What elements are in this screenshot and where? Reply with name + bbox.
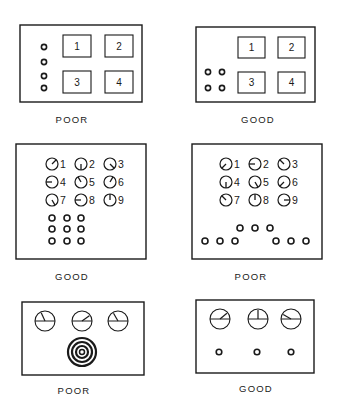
knob-icon <box>41 73 46 78</box>
dial-pointer <box>222 164 226 168</box>
concentric-knob-icon <box>76 346 88 358</box>
dial-label: 3 <box>118 158 124 170</box>
dial-pointer <box>110 177 113 182</box>
knob-icon <box>216 349 222 355</box>
knob-icon <box>64 215 70 221</box>
panel-frame <box>196 27 315 102</box>
knob-icon <box>41 85 46 90</box>
panel-layout-diagram: 12341234123456789123456789 <box>0 0 338 407</box>
meter-pointer <box>283 315 291 320</box>
knob-icon <box>254 349 260 355</box>
concentric-knob-icon <box>80 350 85 355</box>
knob-icon <box>205 69 210 74</box>
panel-c-good <box>196 300 314 373</box>
knob-icon <box>78 238 84 244</box>
caption-b-poor: POOR <box>235 271 268 282</box>
knob-icon <box>217 238 223 244</box>
dial-pointer <box>280 182 284 186</box>
caption-b-good: GOOD <box>55 271 89 282</box>
knob-icon <box>219 85 224 90</box>
knob-icon <box>64 226 70 232</box>
dial-label: 4 <box>60 176 66 188</box>
dial-label: 3 <box>292 158 298 170</box>
display-label: 1 <box>249 42 255 53</box>
dial-pointer <box>78 177 81 182</box>
display-label: 3 <box>74 77 80 88</box>
dial-label: 6 <box>292 176 298 188</box>
dial-pointer <box>52 200 55 205</box>
knob-icon <box>202 238 208 244</box>
dial-label: 7 <box>60 194 66 206</box>
knob-icon <box>303 238 309 244</box>
meter-pointer <box>41 313 45 321</box>
panel-b-poor: 123456789 <box>192 144 322 259</box>
dial-label: 9 <box>118 194 124 206</box>
knob-icon <box>219 69 224 74</box>
dial-label: 5 <box>263 176 269 188</box>
knob-icon <box>78 226 84 232</box>
knob-icon <box>41 44 46 49</box>
knob-icon <box>232 238 238 244</box>
panel-b-good: 123456789 <box>16 144 146 259</box>
dial-pointer <box>52 160 56 164</box>
knob-icon <box>273 238 279 244</box>
dial-label: 7 <box>234 194 240 206</box>
knob-icon <box>205 85 210 90</box>
dial-label: 4 <box>234 176 240 188</box>
knob-icon <box>288 349 294 355</box>
display-label: 4 <box>289 77 295 88</box>
panel-frame <box>16 144 146 259</box>
dial-label: 1 <box>60 158 66 170</box>
panel-a-poor: 1234 <box>20 25 142 102</box>
knob-icon <box>237 225 243 231</box>
dial-pointer <box>110 164 114 168</box>
dial-pointer <box>255 182 258 187</box>
dial-label: 8 <box>263 194 269 206</box>
caption-a-poor: POOR <box>56 114 89 125</box>
knob-icon <box>49 238 55 244</box>
knob-icon <box>252 225 258 231</box>
knob-icon <box>267 225 273 231</box>
dial-pointer <box>280 160 284 164</box>
knob-icon <box>41 59 46 64</box>
dial-label: 2 <box>263 158 269 170</box>
display-label: 2 <box>116 41 122 52</box>
dial-label: 5 <box>89 176 95 188</box>
meter-pointer <box>220 313 227 319</box>
display-label: 4 <box>116 77 122 88</box>
dial-label: 8 <box>89 194 95 206</box>
display-label: 2 <box>289 42 295 53</box>
caption-c-good: GOOD <box>239 383 273 394</box>
dial-pointer <box>222 196 226 200</box>
meter-pointer <box>82 316 89 321</box>
display-label: 1 <box>74 41 80 52</box>
dial-label: 6 <box>118 176 124 188</box>
knob-icon <box>64 238 70 244</box>
knob-icon <box>288 238 294 244</box>
knob-icon <box>49 226 55 232</box>
knob-icon <box>49 215 55 221</box>
display-label: 3 <box>249 77 255 88</box>
knob-icon <box>78 215 84 221</box>
panel-c-poor <box>22 302 144 375</box>
dial-label: 9 <box>292 194 298 206</box>
dial-label: 1 <box>234 158 240 170</box>
caption-c-poor: POOR <box>58 385 91 396</box>
meter-pointer <box>114 313 119 321</box>
dial-label: 2 <box>89 158 95 170</box>
panel-frame <box>20 25 142 102</box>
caption-a-good: GOOD <box>241 114 275 125</box>
panel-a-good: 1234 <box>196 27 315 102</box>
